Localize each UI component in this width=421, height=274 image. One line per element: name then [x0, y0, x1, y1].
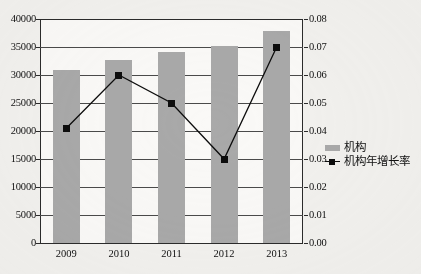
y-tick-left-35000: 35000 — [0, 42, 36, 52]
y-tickmark-right — [304, 159, 308, 160]
y-tickmark-right — [304, 215, 308, 216]
y-tick-left-20000: 20000 — [0, 126, 36, 136]
y-tick-left-0: 0 — [0, 238, 36, 248]
y-tickmark-left — [36, 159, 40, 160]
marker-2009 — [63, 125, 70, 132]
legend-label-bar: 机构 — [344, 141, 366, 154]
y-tick-left-30000: 30000 — [0, 70, 36, 80]
y-tick-right-0.04: 0.04 — [309, 126, 349, 136]
legend-label-line: 机构年增长率 — [344, 155, 410, 168]
y-tick-right-0.00: 0.00 — [309, 238, 349, 248]
x-tick-2012: 2012 — [198, 248, 250, 260]
y-tickmark-left — [36, 131, 40, 132]
y-tickmark-right — [304, 19, 308, 20]
x-tick-2010: 2010 — [93, 248, 145, 260]
chart-container: 0500010000150002000025000300003500040000… — [0, 0, 421, 274]
y-tick-right-0.01: 0.01 — [309, 210, 349, 220]
y-tick-right-0.05: 0.05 — [309, 98, 349, 108]
bar-swatch-icon — [325, 145, 340, 151]
y-tick-right-0.08: 0.08 — [309, 14, 349, 24]
y-tick-right-0.06: 0.06 — [309, 70, 349, 80]
x-tick-2009: 2009 — [40, 248, 92, 260]
y-tickmark-right — [304, 47, 308, 48]
y-tick-right-0.07: 0.07 — [309, 42, 349, 52]
y-tick-left-15000: 15000 — [0, 154, 36, 164]
y-tickmark-left — [36, 103, 40, 104]
y-tickmark-right — [304, 103, 308, 104]
marker-2011 — [168, 100, 175, 107]
y-tickmark-left — [36, 47, 40, 48]
line-series — [0, 0, 421, 274]
legend: 机构 机构年增长率 — [325, 141, 410, 169]
y-tickmark-left — [36, 243, 40, 244]
y-tickmark-right — [304, 243, 308, 244]
y-tickmark-right — [304, 131, 308, 132]
y-tickmark-left — [36, 19, 40, 20]
legend-item-line: 机构年增长率 — [325, 155, 410, 168]
marker-2010 — [115, 72, 122, 79]
y-tickmark-left — [36, 187, 40, 188]
marker-2013 — [273, 44, 280, 51]
y-tickmark-right — [304, 75, 308, 76]
y-tickmark-left — [36, 75, 40, 76]
y-tick-right-0.02: 0.02 — [309, 182, 349, 192]
legend-item-bar: 机构 — [325, 141, 410, 154]
y-tick-left-25000: 25000 — [0, 98, 36, 108]
marker-2012 — [221, 156, 228, 163]
y-tick-left-5000: 5000 — [0, 210, 36, 220]
y-tick-left-40000: 40000 — [0, 14, 36, 24]
x-tick-2013: 2013 — [251, 248, 303, 260]
y-tickmark-right — [304, 187, 308, 188]
y-tick-left-10000: 10000 — [0, 182, 36, 192]
line-square-swatch-icon — [325, 158, 340, 165]
y-tickmark-left — [36, 215, 40, 216]
x-tick-2011: 2011 — [146, 248, 198, 260]
